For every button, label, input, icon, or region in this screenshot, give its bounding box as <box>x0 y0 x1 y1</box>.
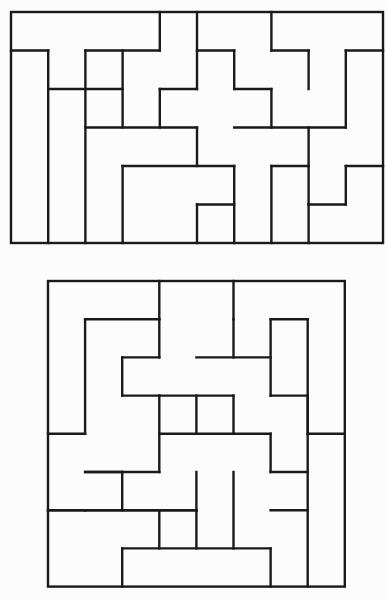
pentomino-diagram <box>0 0 387 600</box>
bottom-puzzle <box>48 281 345 587</box>
top-puzzle <box>11 12 383 243</box>
